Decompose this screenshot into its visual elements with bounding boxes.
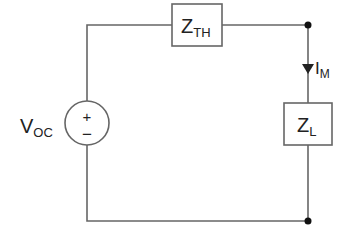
im-label: IM xyxy=(315,59,330,81)
minus-sign: − xyxy=(82,125,92,144)
impedance-zth: ZTH xyxy=(172,4,222,46)
plus-sign: + xyxy=(83,108,92,125)
arrow-down-icon xyxy=(302,64,314,74)
impedance-zl: ZL xyxy=(284,103,332,145)
voltage-source: + − VOC xyxy=(20,101,109,145)
voc-label: VOC xyxy=(20,115,53,140)
wires xyxy=(87,25,308,221)
node-bottom-right xyxy=(305,218,312,225)
wire-bottom xyxy=(87,145,308,221)
circuit-diagram: ZTH ZL + − VOC IM xyxy=(0,0,357,235)
current-indicator: IM xyxy=(302,59,330,81)
wire-left-top xyxy=(87,25,172,101)
node-top-right xyxy=(305,22,312,29)
